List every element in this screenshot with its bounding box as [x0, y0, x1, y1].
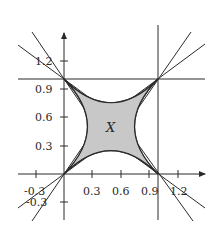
- y-tick-label: 0.9: [35, 83, 53, 96]
- tangent-line: [132, 136, 193, 221]
- x-tick-label: 0.3: [83, 185, 101, 198]
- diagram-svg: -0.3 0.3 0.6 0.9 1.2 -0.3 0.3 0.6 0.9 1.…: [0, 0, 217, 243]
- diagram: -0.3 0.3 0.6 0.9 1.2 -0.3 0.3 0.6 0.9 1.…: [0, 0, 217, 243]
- tangent-line: [32, 32, 90, 117]
- x-tick-label: 1.2: [170, 185, 188, 198]
- region-label: X: [105, 120, 116, 135]
- y-tick-label: 0.6: [35, 111, 53, 124]
- y-tick-label: 0.3: [35, 140, 53, 153]
- x-tick-label: 0.6: [112, 185, 130, 198]
- x-tick-label: 0.9: [141, 185, 159, 198]
- tangent-line: [132, 32, 191, 117]
- y-tick-label: 1.2: [35, 55, 53, 68]
- y-tick-label: -0.3: [26, 196, 47, 209]
